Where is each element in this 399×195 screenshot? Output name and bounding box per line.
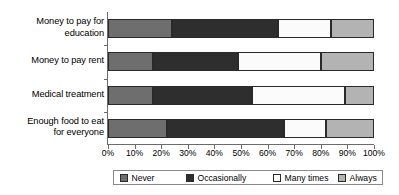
legend-label: Always <box>350 173 377 183</box>
chart-legend: NeverOccasionallyMany timesAlways <box>113 170 383 185</box>
legend-label: Occasionally <box>198 173 247 183</box>
category-label: Medical treatment <box>0 89 104 100</box>
legend-item-occasionally[interactable]: Occasionally <box>186 172 246 183</box>
bar-segment-many-times <box>252 86 345 105</box>
stacked-bar-chart: Money to pay foreducationMoney to pay re… <box>0 0 399 195</box>
bar-4 <box>108 119 374 138</box>
legend-item-never[interactable]: Never <box>120 172 154 183</box>
y-axis-tick <box>104 79 108 80</box>
bar-2 <box>108 52 374 71</box>
category-label-line: education <box>0 28 104 39</box>
legend-swatch-icon <box>273 174 281 182</box>
legend-swatch-icon <box>186 174 194 182</box>
category-label: Enough food to eatfor everyone <box>0 116 104 138</box>
legend-label: Never <box>132 173 155 183</box>
bar-segment-occasionally <box>167 119 284 138</box>
y-axis-tick <box>104 45 108 46</box>
legend-item-always[interactable]: Always <box>338 172 377 183</box>
category-label: Money to pay foreducation <box>0 16 104 38</box>
bar-segment-always <box>326 119 374 138</box>
y-axis-tick <box>104 112 108 113</box>
x-axis-tick-labels: 0%10%20%30%40%50%60%70%80%90%100% <box>108 148 374 162</box>
bar-3 <box>108 86 374 105</box>
legend-item-many-times[interactable]: Many times <box>273 172 328 183</box>
bar-segment-many-times <box>284 119 327 138</box>
bar-segment-never <box>108 52 153 71</box>
category-label-line: Medical treatment <box>0 89 104 100</box>
bar-segment-never <box>108 119 167 138</box>
legend-swatch-icon <box>120 174 128 182</box>
category-label: Money to pay rent <box>0 55 104 66</box>
legend-label: Many times <box>285 173 329 183</box>
bar-segment-never <box>108 86 153 105</box>
bar-segment-many-times <box>278 19 331 38</box>
bar-segment-many-times <box>238 52 320 71</box>
bar-segment-occasionally <box>153 86 251 105</box>
bar-segment-occasionally <box>153 52 238 71</box>
category-label-line: Enough food to eat <box>0 116 104 127</box>
bar-segment-always <box>321 52 374 71</box>
bar-segment-always <box>331 19 374 38</box>
legend-swatch-icon <box>338 174 346 182</box>
category-label-line: Money to pay rent <box>0 55 104 66</box>
plot-area <box>108 12 374 145</box>
bar-1 <box>108 19 374 38</box>
bar-segment-never <box>108 19 172 38</box>
x-axis-tick-label: 100% <box>354 148 394 158</box>
category-label-line: Money to pay for <box>0 16 104 27</box>
category-axis-labels: Money to pay foreducationMoney to pay re… <box>0 10 104 145</box>
category-label-line: for everyone <box>0 127 104 138</box>
bar-segment-occasionally <box>172 19 278 38</box>
bar-segment-always <box>345 86 374 105</box>
